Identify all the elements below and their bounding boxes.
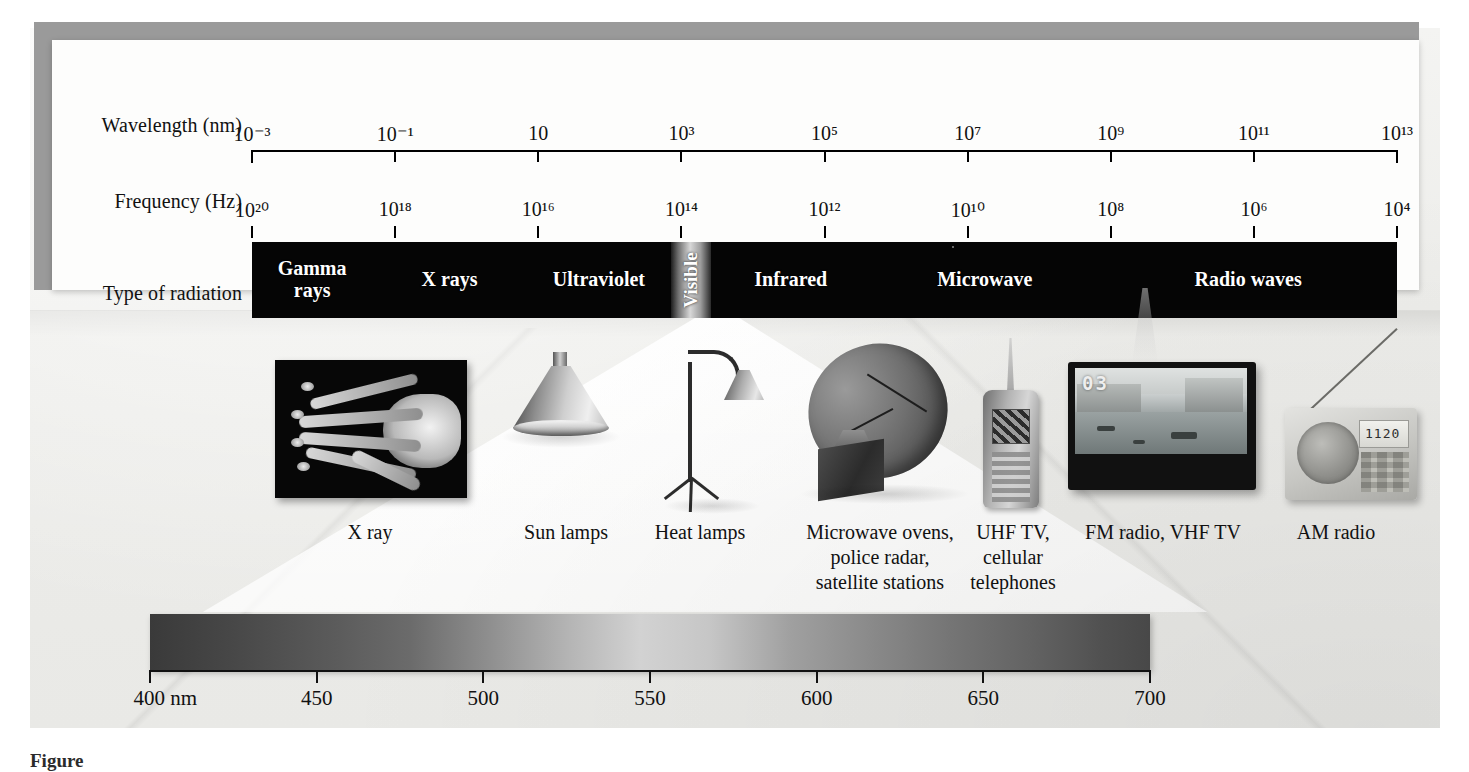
visible-spectrum-scale: 400 nm450500550600650700 bbox=[150, 614, 1150, 718]
band-segment-x-rays: X rays bbox=[372, 242, 527, 318]
axis-tick bbox=[394, 226, 396, 238]
axis-tick-label: 10⁴ bbox=[1384, 198, 1411, 221]
sun-lamp-shade bbox=[513, 366, 609, 428]
axis-tick-label: 10⁵ bbox=[811, 122, 838, 145]
axis-tick bbox=[537, 150, 539, 162]
x-ray-photo bbox=[275, 360, 467, 498]
heat-lamp-post bbox=[688, 362, 692, 482]
axis-tick bbox=[1396, 150, 1398, 163]
electromagnetic-spectrum-figure: Wavelength (nm) Frequency (Hz) Type of r… bbox=[0, 0, 1469, 772]
radio-keypad bbox=[1361, 452, 1409, 492]
axis-tick-label: 10⁷ bbox=[954, 122, 981, 145]
device-caption-heat-lamp: Heat lamps bbox=[655, 520, 746, 545]
cell-phone-device bbox=[983, 390, 1039, 510]
band-segment-microwave: Microwave bbox=[870, 242, 1099, 318]
axis-tick-label: 10¹² bbox=[809, 198, 841, 221]
axis-tick bbox=[1396, 226, 1398, 238]
axis-tick-label: 10¹⁴ bbox=[665, 198, 698, 221]
axis-tick-label: 10²⁰ bbox=[235, 198, 269, 222]
device-caption-x-ray: X ray bbox=[348, 520, 393, 545]
chart-panel-shadow: Wavelength (nm) Frequency (Hz) Type of r… bbox=[34, 22, 1419, 290]
axis-tick bbox=[1253, 150, 1255, 162]
heat-lamp-shadow bbox=[664, 498, 760, 514]
phone-screen bbox=[992, 409, 1030, 444]
device-caption-am-radio: AM radio bbox=[1297, 520, 1375, 545]
visible-spectrum-tick-label: 700 bbox=[1134, 686, 1166, 711]
axis-tick-label: 10 bbox=[528, 122, 548, 145]
axis-tick-label: 10³ bbox=[668, 122, 694, 145]
tv-image-canal bbox=[1075, 412, 1247, 454]
tv-channel-number: 03 bbox=[1082, 372, 1109, 394]
axis-tick bbox=[394, 150, 396, 162]
axis-tick bbox=[1110, 150, 1112, 162]
visible-spectrum-bar bbox=[150, 614, 1150, 670]
radiation-band: Gamma raysX raysUltravioletVisibleInfrar… bbox=[252, 242, 1397, 318]
axis-tick bbox=[680, 226, 682, 238]
television-device: 03 bbox=[1068, 362, 1256, 490]
sun-lamp-device bbox=[505, 352, 615, 442]
x-ray-fingertip bbox=[291, 438, 304, 447]
tv-image-boat bbox=[1171, 432, 1197, 439]
axis-tick-label: 10⁻¹ bbox=[377, 122, 414, 146]
visible-spectrum-tick-label: 600 bbox=[801, 686, 833, 711]
x-ray-fingertip bbox=[297, 462, 310, 471]
axis-tick-label: 10¹⁸ bbox=[379, 198, 412, 221]
heat-lamp-device bbox=[640, 348, 760, 508]
x-ray-fingertip bbox=[291, 410, 304, 419]
chart-panel: Wavelength (nm) Frequency (Hz) Type of r… bbox=[52, 40, 1419, 290]
axis-tick-label: 10⁶ bbox=[1240, 198, 1267, 221]
device-caption-cell-phone: UHF TV, cellular telephones bbox=[970, 520, 1056, 595]
axis-tick bbox=[251, 226, 253, 238]
device-caption-satellite-dish: Microwave ovens, police radar, satellite… bbox=[806, 520, 954, 595]
axis-tick bbox=[680, 150, 682, 162]
radio-display: 1120 bbox=[1359, 420, 1409, 448]
visible-spectrum-tick bbox=[1149, 670, 1151, 683]
visible-spectrum-tick bbox=[482, 670, 484, 683]
visible-spectrum-tick-label: 450 bbox=[301, 686, 333, 711]
visible-spectrum-tick bbox=[982, 670, 984, 683]
axis-tick-label: 10¹⁶ bbox=[522, 198, 555, 221]
axis-tick bbox=[537, 226, 539, 238]
satellite-dish-device bbox=[800, 344, 970, 504]
tv-image-boat bbox=[1097, 426, 1115, 431]
band-segment-visible: Visible bbox=[671, 242, 711, 318]
band-label-visible: Visible bbox=[680, 252, 702, 307]
axis-tick bbox=[1253, 226, 1255, 238]
axis-tick-label: 10¹¹ bbox=[1238, 122, 1270, 145]
visible-spectrum-tick-label: 550 bbox=[634, 686, 666, 711]
type-of-radiation-label: Type of radiation bbox=[62, 282, 242, 305]
heat-lamp-leg bbox=[691, 477, 720, 500]
x-ray-palm bbox=[383, 394, 461, 468]
band-segment-ultraviolet: Ultraviolet bbox=[527, 242, 671, 318]
axis-tick-label: 10¹³ bbox=[1381, 122, 1413, 145]
figure-caption: Figure bbox=[30, 750, 730, 772]
axis-tick-label: 10⁸ bbox=[1097, 198, 1124, 221]
sun-lamp-shadow bbox=[501, 426, 621, 448]
axis-tick-label: 10⁻³ bbox=[234, 122, 271, 146]
axis-tick bbox=[1110, 226, 1112, 238]
visible-spectrum-tick bbox=[316, 670, 318, 683]
phone-keypad bbox=[992, 452, 1030, 502]
visible-spectrum-tick-label: 650 bbox=[968, 686, 1000, 711]
wavelength-axis: 10⁻³10⁻¹1010³10⁵10⁷10⁹10¹¹10¹³ bbox=[52, 128, 1419, 158]
device-caption-television: FM radio, VHF TV bbox=[1085, 520, 1241, 545]
dish-shadow bbox=[800, 484, 970, 504]
device-caption-sun-lamp: Sun lamps bbox=[524, 520, 608, 545]
am-radio-device: 1120 bbox=[1285, 408, 1417, 500]
band-segment-infrared: Infrared bbox=[711, 242, 870, 318]
band-segment-gamma-rays: Gamma rays bbox=[252, 242, 372, 318]
radio-speaker bbox=[1297, 422, 1359, 484]
visible-spectrum-tick bbox=[149, 670, 151, 683]
radio-antenna bbox=[1307, 322, 1427, 414]
axis-tick bbox=[251, 150, 253, 163]
tv-image-boat bbox=[1133, 440, 1145, 444]
visible-spectrum-tick-label: 400 nm bbox=[133, 686, 197, 711]
visible-spectrum-tick-label: 500 bbox=[468, 686, 500, 711]
radio-frequency-readout: 1120 bbox=[1365, 426, 1400, 441]
frequency-axis: 10²⁰10¹⁸10¹⁶10¹⁴10¹²10¹⁰10⁸10⁶10⁴ bbox=[52, 204, 1419, 234]
visible-spectrum-tick bbox=[816, 670, 818, 683]
axis-tick-label: 10⁹ bbox=[1097, 122, 1124, 145]
visible-spectrum-tick bbox=[649, 670, 651, 683]
axis-tick bbox=[824, 150, 826, 162]
axis-tick bbox=[824, 226, 826, 238]
